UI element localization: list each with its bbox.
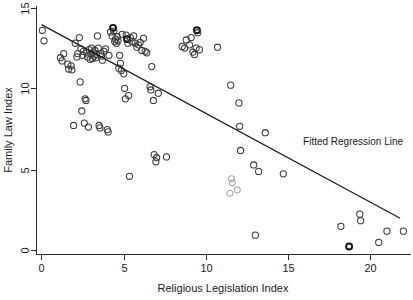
y-tick-label-0: 0 — [19, 247, 31, 253]
data-point — [228, 82, 234, 88]
data-point — [155, 90, 161, 96]
x-tick-label-15: 15 — [282, 262, 294, 274]
data-point — [227, 190, 233, 196]
x-tick-label-0: 0 — [38, 262, 44, 274]
data-point — [61, 51, 67, 57]
data-point — [188, 34, 194, 40]
data-point — [376, 239, 382, 245]
y-tick-labels: 15 10 5 0 — [19, 2, 31, 253]
data-point — [121, 85, 127, 91]
fitted-regression-line-label: Fitted Regression Line — [303, 136, 403, 147]
data-point — [338, 223, 344, 229]
data-point — [79, 108, 85, 114]
data-point — [234, 187, 240, 193]
data-point — [252, 232, 258, 238]
data-point — [236, 100, 242, 106]
y-tick-marks — [31, 9, 37, 251]
plot-canvas: 15 10 5 0 0 5 10 15 20 Religious Legisla… — [0, 0, 413, 300]
data-point — [251, 162, 257, 168]
x-tick-label-5: 5 — [121, 262, 127, 274]
x-tick-labels: 0 5 10 15 20 — [38, 262, 376, 274]
data-point — [229, 180, 235, 186]
data-point — [126, 173, 132, 179]
data-point — [163, 154, 169, 160]
data-point — [256, 168, 262, 174]
data-point — [76, 34, 82, 40]
data-point — [400, 228, 406, 234]
x-tick-label-10: 10 — [200, 262, 212, 274]
data-point — [262, 130, 268, 136]
data-point — [346, 243, 352, 249]
data-point — [39, 27, 45, 33]
data-point — [41, 38, 47, 44]
data-point — [186, 42, 192, 48]
data-point — [237, 123, 243, 129]
axes-group — [37, 6, 412, 255]
data-point — [77, 79, 83, 85]
y-tick-label-15: 15 — [19, 2, 31, 14]
data-point — [117, 52, 123, 58]
data-point — [358, 218, 364, 224]
y-axis-title: Family Law Index — [2, 87, 14, 173]
data-point — [280, 171, 286, 177]
y-tick-label-5: 5 — [19, 167, 31, 173]
x-axis-title: Religious Legislation Index — [158, 282, 289, 294]
data-point — [149, 63, 155, 69]
data-point — [85, 124, 91, 130]
data-point — [70, 122, 76, 128]
x-tick-label-20: 20 — [364, 262, 376, 274]
data-point — [357, 211, 363, 217]
data-point — [106, 52, 112, 58]
data-point — [150, 97, 156, 103]
data-point — [214, 44, 220, 50]
x-tick-marks — [42, 255, 371, 261]
data-point — [144, 50, 150, 56]
data-point — [384, 228, 390, 234]
data-point — [237, 147, 243, 153]
data-point — [94, 33, 100, 39]
fitted-regression-line — [42, 25, 401, 219]
y-tick-label-10: 10 — [19, 82, 31, 94]
scatter-plot-figure: 15 10 5 0 0 5 10 15 20 Religious Legisla… — [0, 0, 413, 300]
data-point — [140, 35, 146, 41]
